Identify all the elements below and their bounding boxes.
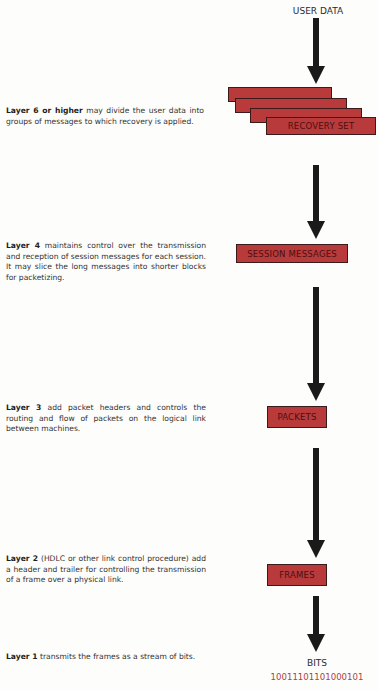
- recovery-set-label: RECOVERY SET: [288, 121, 355, 131]
- session-messages-label: SESSION MESSAGES: [247, 249, 337, 259]
- arrow-down-icon: [306, 287, 326, 403]
- layer-4-title: Layer 4: [6, 241, 40, 250]
- bits-label: BITS: [277, 658, 357, 668]
- layer-3-title: Layer 3: [6, 403, 41, 412]
- layer-2-description: Layer 2 (HDLC or other link control proc…: [6, 554, 206, 586]
- arrow-down-icon: [306, 596, 326, 654]
- layer-6-description: Layer 6 or higher may divide the user da…: [6, 106, 204, 127]
- layer-6-title: Layer 6 or higher: [6, 106, 83, 115]
- arrow-down-icon: [306, 165, 326, 241]
- bitstream: 10011101101000101: [247, 672, 379, 682]
- user-data-label: USER DATA: [278, 6, 358, 16]
- session-messages-box: SESSION MESSAGES: [236, 244, 348, 263]
- recovery-set-box: RECOVERY SET: [266, 117, 376, 135]
- arrow-down-icon: [306, 448, 326, 560]
- frames-label: FRAMES: [279, 570, 315, 580]
- arrow-down-icon: [306, 18, 326, 86]
- frames-box: FRAMES: [267, 564, 327, 586]
- layer-1-title: Layer 1: [6, 652, 38, 661]
- packets-label: PACKETS: [277, 412, 316, 422]
- layer-4-description: Layer 4 maintains control over the trans…: [6, 241, 206, 283]
- packets-box: PACKETS: [267, 406, 327, 428]
- layer-2-title: Layer 2: [6, 554, 38, 563]
- layer-1-text: transmits the frames as a stream of bits…: [38, 652, 196, 661]
- layer-3-description: Layer 3 add packet headers and controls …: [6, 403, 206, 435]
- layer-1-description: Layer 1 transmits the frames as a stream…: [6, 652, 226, 663]
